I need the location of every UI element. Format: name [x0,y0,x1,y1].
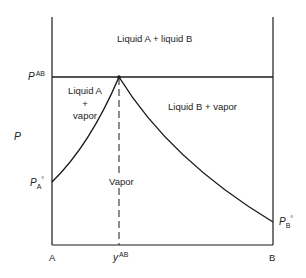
pressure-label-pure-a: PA° [30,178,44,188]
pressure-label-pure-a-base: P [30,177,37,188]
pressure-label-azeotrope-sup: AB [36,70,45,77]
pressure-label-pure-b-sub: B [286,222,291,229]
region-label-liquid-a-vapor: Liquid A + vapor [62,86,108,121]
y-axis-label: P [14,131,21,142]
pressure-label-pure-b-base: P [279,216,286,227]
region-label-liquid-b-vapor: Liquid B + vapor [168,102,237,112]
region-label-liquid-a-vapor-line3: vapor [62,111,108,121]
region-label-vapor: Vapor [109,176,134,188]
pressure-label-pure-b-deg: ° [290,215,293,222]
x-axis-label-b: B [269,253,275,263]
azeotrope-point [117,75,121,79]
x-axis-label-azeotrope-base: y [113,252,118,263]
x-axis-label-azeotrope-composition: yAB [113,253,128,263]
vapor-curve-B [119,77,273,222]
region-label-liquid-a-liquid-b: Liquid A + liquid B [117,34,192,44]
region-label-liquid-a-vapor-line1: Liquid A [62,86,108,96]
pressure-label-pure-a-sub: A [37,183,42,190]
pressure-label-pure-a-deg: ° [41,176,44,183]
region-label-liquid-a-vapor-line2: + [62,99,108,109]
x-axis-label-a: A [49,253,55,263]
pressure-label-azeotrope-base: P [28,71,35,82]
pressure-label-pure-b: PB° [279,217,293,227]
pressure-label-azeotrope: PAB [28,72,45,82]
x-axis-label-azeotrope-sup: AB [119,251,128,258]
